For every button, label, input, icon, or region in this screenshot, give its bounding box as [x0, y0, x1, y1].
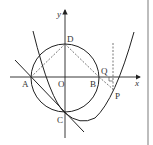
- point-P-label: P: [115, 91, 120, 101]
- origin-label: O: [58, 79, 65, 89]
- point-D-label: D: [67, 34, 74, 44]
- line-AC: [15, 60, 84, 132]
- y-axis-label: y: [56, 9, 61, 19]
- right-angle-mark: [109, 77, 113, 81]
- segment-BP: [99, 77, 114, 90]
- point-Q-label: Q: [101, 66, 108, 76]
- geometry-diagram: y x O A B C D P Q: [0, 0, 153, 145]
- point-C-label: C: [57, 115, 63, 125]
- page-edge-divider: [147, 0, 149, 145]
- point-A-label: A: [22, 79, 29, 89]
- point-B-label: B: [90, 79, 96, 89]
- x-axis-label: x: [134, 78, 139, 88]
